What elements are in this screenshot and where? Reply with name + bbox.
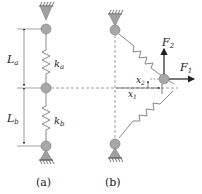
dimension-lines xyxy=(17,29,42,146)
caption-b: (b) xyxy=(105,176,121,189)
spring-a-label: ka xyxy=(54,58,64,71)
bottom-pinned-support-icon xyxy=(108,139,123,162)
panel-b: x2 x1 F2 F1 (b) xyxy=(105,10,194,189)
two-spring-diagram: ka kb La Lb (a) xyxy=(0,0,202,194)
length-a-label: La xyxy=(6,53,19,67)
middle-node xyxy=(41,83,51,93)
x1-label: x1 xyxy=(128,89,137,100)
spring-a-icon xyxy=(42,34,50,86)
spring-b-label: kb xyxy=(54,115,65,128)
spring-b-icon xyxy=(42,93,50,144)
top-pinned-support-icon xyxy=(108,10,123,35)
displaced-node xyxy=(159,74,169,84)
caption-a: (a) xyxy=(36,176,51,189)
force-f1-label: F1 xyxy=(179,61,192,75)
bottom-fixed-support-icon xyxy=(39,141,54,164)
x2-label: x2 xyxy=(136,75,145,86)
panel-a: ka kb La Lb (a) xyxy=(6,2,65,189)
length-b-label: Lb xyxy=(6,112,19,126)
force-f2-label: F2 xyxy=(161,36,175,50)
